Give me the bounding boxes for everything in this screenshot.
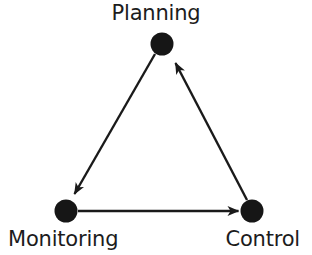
edges-group (75, 54, 248, 211)
node-monitoring[interactable] (55, 200, 78, 223)
node-planning[interactable] (151, 33, 174, 56)
node-control[interactable] (241, 200, 264, 223)
node-label-control: Control (0, 229, 300, 250)
node-label-planning: Planning (0, 3, 312, 24)
cycle-diagram: Planning Monitoring Control (0, 0, 312, 255)
diagram-canvas (0, 0, 312, 255)
edge-planning-to-monitoring (75, 54, 156, 194)
edge-control-to-planning (176, 63, 248, 200)
nodes-group (55, 33, 264, 223)
